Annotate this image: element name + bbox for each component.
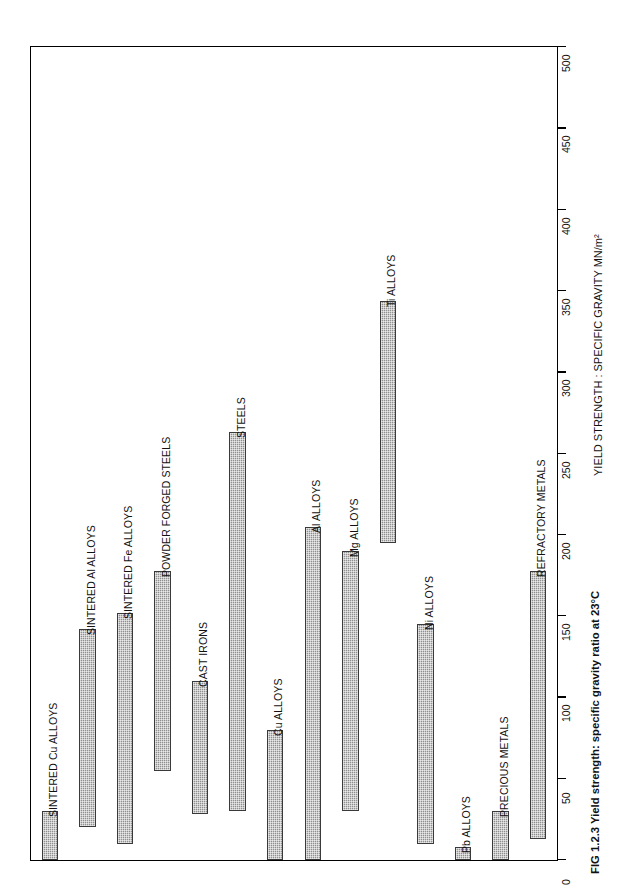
axis-tick (558, 615, 566, 616)
bar-mg-alloys (342, 551, 359, 811)
axis-tick-label: 500 (560, 54, 572, 72)
bar-label: REFRACTORY METALS (535, 459, 547, 577)
axis-tick (558, 696, 566, 697)
bar-label: Cu ALLOYS (272, 678, 284, 736)
bar-label: Al ALLOYS (310, 479, 322, 532)
axis-tick (558, 778, 566, 779)
axis-tick-label: 350 (560, 298, 572, 316)
bar-label: SINTERED Cu ALLOYS (47, 703, 59, 817)
axis-tick-label: 450 (560, 136, 572, 154)
axis-tick (558, 453, 566, 454)
axis-tick (558, 127, 566, 128)
axis-tick-label: 50 (560, 792, 572, 804)
axis-tick (558, 859, 566, 860)
bar-label: Mg ALLOYS (348, 498, 360, 557)
bar-ti-alloys (380, 301, 397, 543)
bar-label: Pb ALLOYS (460, 796, 472, 853)
bar-label: Ti ALLOYS (385, 254, 397, 306)
bar-cast-irons (192, 681, 209, 814)
bar-label: PRECIOUS METALS (498, 717, 510, 818)
axis-tick-label: 200 (560, 542, 572, 560)
axis-tick-label: 0 (560, 879, 572, 885)
bar-cu-alloys (267, 730, 284, 860)
bar-label: SINTERED Al ALLOYS (85, 525, 97, 635)
axis-tick-label: 400 (560, 217, 572, 235)
axis-tick (558, 534, 566, 535)
bar-label: STEELS (235, 397, 247, 438)
axis-tick-label: 300 (560, 380, 572, 398)
axis-tick-label: 150 (560, 624, 572, 642)
axis-tick (558, 290, 566, 291)
axis-tick (558, 371, 566, 372)
bar-sintered-fe-alloys (117, 613, 134, 844)
chart-plot-area: SINTERED Cu ALLOYSSINTERED Al ALLOYSSINT… (30, 46, 558, 861)
bar-sintered-al-alloys (79, 629, 96, 827)
bar-ni-alloys (417, 624, 434, 844)
bar-precious-metals (492, 811, 509, 860)
bar-label: Ni ALLOYS (423, 576, 435, 630)
bar-sintered-cu-alloys (42, 811, 59, 860)
axis-tick-label: 100 (560, 705, 572, 723)
axis-title: YIELD STRENGTH : SPECIFIC GRAVITY MN/m² (592, 234, 604, 476)
bar-label: CAST IRONS (197, 622, 209, 687)
bar-label: POWDER FORGED STEELS (160, 436, 172, 576)
bar-refractory-metals (530, 571, 547, 839)
axis-tick (558, 46, 566, 47)
figure-caption: FIG 1.2.3 Yield strength: specific gravi… (589, 591, 601, 874)
axis-tick-label: 250 (560, 461, 572, 479)
bar-al-alloys (305, 527, 322, 860)
bar-powder-forged-steels (154, 571, 171, 771)
bar-label: SINTERED Fe ALLOYS (122, 506, 134, 619)
bar-steels (229, 432, 246, 811)
axis-tick (558, 209, 566, 210)
